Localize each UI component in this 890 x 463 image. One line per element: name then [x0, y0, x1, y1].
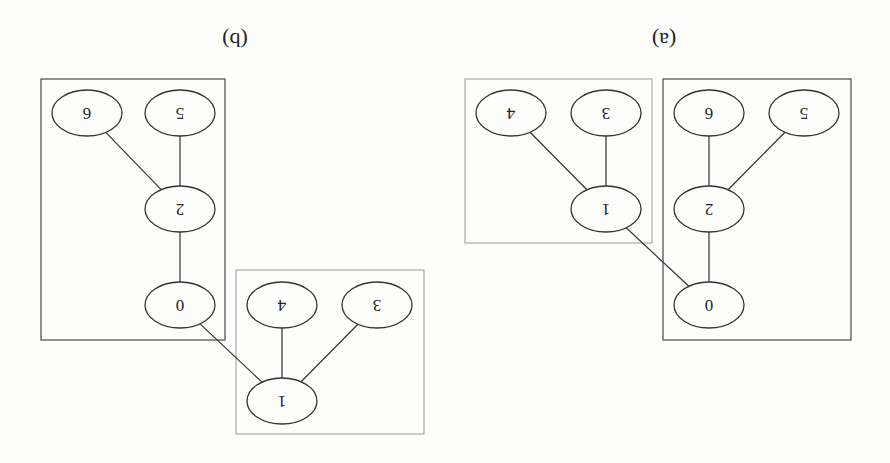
node-label: 5 — [800, 104, 809, 123]
node-5: 5 — [769, 90, 839, 136]
subfigure-label: (a) — [652, 28, 676, 53]
node-label: 6 — [83, 104, 92, 123]
node-5: 5 — [145, 90, 215, 136]
edge-2-6 — [106, 132, 161, 189]
node-label: 1 — [602, 200, 611, 219]
node-2: 2 — [145, 186, 215, 232]
edge-0-1 — [200, 324, 262, 382]
node-label: 4 — [277, 296, 286, 315]
node-1: 1 — [571, 186, 641, 232]
node-3: 3 — [571, 90, 641, 136]
node-0: 0 — [674, 282, 744, 328]
subfigure-label: (b) — [222, 28, 248, 53]
edge-2-5 — [728, 132, 785, 189]
node-label: 3 — [602, 104, 611, 123]
node-label: 4 — [506, 104, 515, 123]
node-label: 5 — [176, 104, 185, 123]
node-0: 0 — [145, 282, 215, 328]
node-label: 2 — [705, 200, 714, 219]
tree-diagram: 6520431(b)6520431(a) — [0, 0, 890, 463]
node-2: 2 — [674, 186, 744, 232]
node-6: 6 — [52, 90, 122, 136]
node-4: 4 — [247, 282, 317, 328]
panel-b: 6520431(b) — [41, 28, 424, 435]
edge-1-4 — [530, 132, 587, 189]
node-3: 3 — [342, 282, 412, 328]
node-label: 0 — [176, 296, 185, 315]
node-4: 4 — [476, 90, 546, 136]
edge-0-1 — [626, 228, 689, 286]
node-label: 2 — [176, 200, 185, 219]
panel-a: 6520431(a) — [465, 28, 851, 341]
node-label: 3 — [373, 296, 382, 315]
node-label: 0 — [705, 296, 714, 315]
figure-canvas: 6520431(b)6520431(a) — [0, 0, 890, 463]
node-6: 6 — [674, 90, 744, 136]
node-1: 1 — [247, 378, 317, 424]
node-label: 6 — [705, 104, 714, 123]
edge-1-3 — [301, 324, 358, 381]
node-label: 1 — [278, 392, 287, 411]
